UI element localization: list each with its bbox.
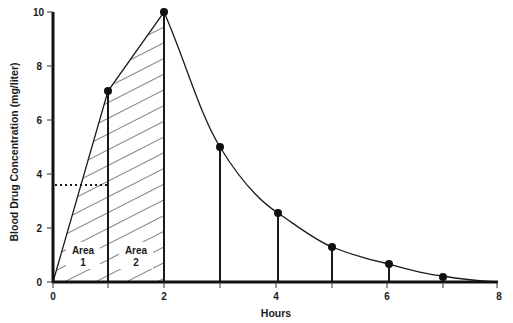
area2-label-line2: 2 xyxy=(133,257,139,268)
x-tick-label-2: 2 xyxy=(161,291,167,302)
y-tick-label-4: 4 xyxy=(36,169,42,180)
marker-5h xyxy=(328,243,336,251)
y-tick-label-2: 2 xyxy=(36,223,42,234)
y-tick-label-0: 0 xyxy=(36,277,42,288)
x-tick-label-6: 6 xyxy=(384,291,390,302)
marker-4h xyxy=(274,209,282,217)
y-tick-label-6: 6 xyxy=(36,115,42,126)
y-tick-label-10: 10 xyxy=(33,7,45,18)
area1-label-line2: 1 xyxy=(80,257,86,268)
y-tick-label-8: 8 xyxy=(36,61,42,72)
area2-label-line1: Area xyxy=(125,245,148,256)
marker-2h xyxy=(160,8,168,16)
marker-7h xyxy=(439,273,447,281)
x-tick-label-4: 4 xyxy=(273,291,279,302)
marker-3h xyxy=(216,143,224,151)
x-axis-title: Hours xyxy=(261,307,291,319)
x-tick-label-8: 8 xyxy=(496,291,502,302)
area1-label-line1: Area xyxy=(72,245,95,256)
marker-1h xyxy=(104,87,112,95)
y-axis-title: Blood Drug Concentration (mg/liter) xyxy=(8,62,20,241)
x-tick-label-0: 0 xyxy=(50,291,56,302)
marker-6h xyxy=(385,260,393,268)
concentration-chart: 0 2 4 6 8 10 0 2 4 6 8 Hours Blood Drug … xyxy=(0,0,513,323)
